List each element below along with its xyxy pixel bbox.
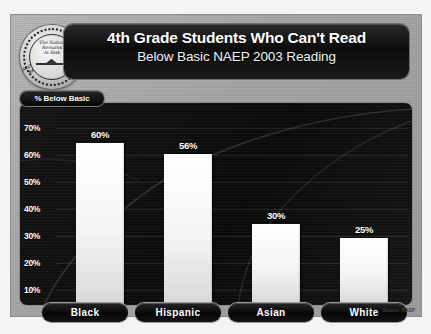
- title-banner: 4th Grade Students Who Can't Read Below …: [64, 24, 409, 79]
- bar-white: [340, 238, 388, 305]
- bar-value-asian: 30%: [252, 210, 300, 221]
- category-label-asian: Asian: [228, 303, 314, 322]
- bar-hispanic: [164, 154, 212, 305]
- bar-asian: [252, 224, 300, 305]
- y-tick-70: 70%: [24, 123, 54, 133]
- bar-value-hispanic: 56%: [164, 140, 212, 151]
- y-tick-20: 20%: [24, 258, 54, 268]
- y-axis-title-badge: % Below Basic: [20, 91, 104, 106]
- bars-plot-area: 60% 56% 30% 25%: [56, 103, 408, 305]
- y-tick-50: 50%: [24, 177, 54, 187]
- page-title: 4th Grade Students Who Can't Read: [64, 29, 409, 47]
- bar-black: [76, 143, 124, 305]
- bar-value-white: 25%: [340, 224, 388, 235]
- category-label-hispanic: Hispanic: [135, 303, 221, 322]
- y-tick-60: 60%: [24, 150, 54, 160]
- category-label-row: Black Hispanic Asian White: [20, 303, 412, 325]
- y-tick-40: 40%: [24, 204, 54, 214]
- category-label-black: Black: [42, 303, 128, 322]
- chart-plot-panel: 70% 60% 50% 40% 30% 20% 10% 60% 56% 30% …: [20, 103, 412, 305]
- bar-value-black: 60%: [76, 129, 124, 140]
- y-tick-30: 30%: [24, 231, 54, 241]
- y-tick-10: 10%: [24, 285, 54, 295]
- chart-poster: NATIONAL COMMISSION ON EXCELLENCE IN EDU…: [11, 15, 421, 316]
- page-subtitle: Below Basic NAEP 2003 Reading: [64, 49, 409, 64]
- source-note: Source: NAEP: [383, 308, 415, 313]
- screenshot-canvas: NATIONAL COMMISSION ON EXCELLENCE IN EDU…: [0, 0, 431, 334]
